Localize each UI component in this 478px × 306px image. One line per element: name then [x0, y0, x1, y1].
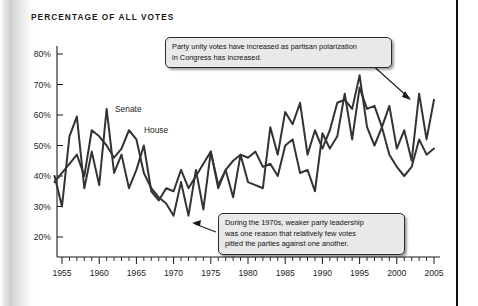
x-tick-label: 1955 — [52, 268, 71, 278]
callout-top-line2: in Congress has increased. — [172, 53, 385, 64]
chart-series-lines — [55, 75, 434, 215]
x-tick-label: 1965 — [127, 268, 146, 278]
series-label-house: House — [144, 125, 169, 135]
x-tick-label: 1980 — [238, 268, 257, 278]
x-tick-label: 1970 — [164, 268, 183, 278]
y-tick-label: 80% — [34, 49, 52, 59]
callout-top-line1: Party unity votes have increased as part… — [172, 42, 385, 53]
x-tick-label: 1990 — [313, 268, 332, 278]
x-tick-label: 1985 — [276, 268, 295, 278]
callout-bottom-line2: was one reason that relatively few votes — [225, 229, 398, 240]
y-tick-label: 40% — [34, 171, 52, 181]
y-tick-label: 50% — [34, 141, 52, 151]
y-axis-tick-labels: 20%30%40%50%60%70%80% — [34, 49, 52, 242]
annotation-callout-bottom: During the 1970s, weaker party leadershi… — [218, 213, 405, 255]
y-tick-label: 30% — [34, 202, 52, 212]
y-tick-label: 20% — [34, 232, 52, 242]
x-tick-label: 2005 — [424, 268, 443, 278]
y-tick-label: 60% — [34, 110, 52, 120]
series-inline-labels: Senate House — [115, 104, 169, 135]
y-tick-label: 70% — [34, 80, 52, 90]
x-tick-label: 1995 — [350, 268, 369, 278]
x-tick-label: 1975 — [201, 268, 220, 278]
x-tick-label: 2000 — [387, 268, 406, 278]
series-line-senate — [55, 88, 434, 207]
x-tick-label: 1960 — [90, 268, 109, 278]
figure-root: PERCENTAGE OF ALL VOTES 20%30%40%50%60%7… — [0, 0, 478, 306]
series-label-senate: Senate — [115, 104, 142, 114]
x-axis-tick-labels: 1955196019651970197519801985199019952000… — [52, 268, 443, 278]
callout-bottom-line1: During the 1970s, weaker party leadershi… — [225, 218, 398, 229]
callout-bottom-line3: pitted the parties against one another. — [225, 239, 398, 250]
callout-arrows — [192, 62, 411, 232]
annotation-callout-top: Party unity votes have increased as part… — [165, 37, 392, 68]
